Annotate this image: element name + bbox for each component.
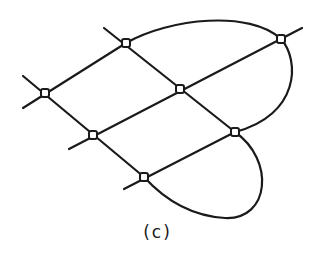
crossing-node <box>231 128 239 136</box>
strand-right-arc <box>235 39 292 132</box>
crossing-node <box>89 131 97 139</box>
strand-middle <box>69 28 302 149</box>
crossing-node <box>41 89 49 97</box>
crossing-node <box>140 173 148 181</box>
figure-caption: (c) <box>0 222 315 242</box>
strand-bottom-loop <box>144 132 262 218</box>
strand-top-arc <box>126 21 281 43</box>
crossing-node <box>122 39 130 47</box>
strand-top-left <box>23 43 126 108</box>
crossing-node <box>277 35 285 43</box>
crossing-node <box>176 85 184 93</box>
